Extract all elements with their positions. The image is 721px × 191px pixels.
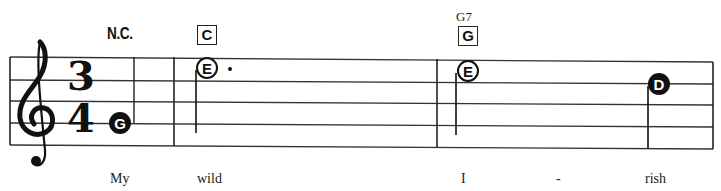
chord-box-c: C — [197, 25, 217, 45]
treble-clef-icon — [20, 42, 53, 165]
note-g: G — [109, 112, 131, 134]
time-signature-denominator: 4 — [63, 97, 99, 139]
augmentation-dot — [228, 67, 232, 71]
lyric-syllable: rish — [645, 171, 666, 187]
time-signature-numerator: 3 — [63, 55, 99, 97]
lyric-hyphen: - — [556, 171, 561, 187]
time-signature: 3 4 — [63, 55, 99, 139]
note-e-half: E — [457, 60, 479, 82]
chord-no-chord: N.C. — [107, 25, 133, 43]
lyric-syllable: My — [110, 171, 129, 187]
note-d: D — [648, 73, 670, 95]
chord-box-g: G — [458, 26, 478, 46]
lyric-syllable: wild — [197, 171, 222, 187]
treble-clef-ball — [31, 156, 41, 166]
note-e-dotted-half: E — [196, 57, 218, 79]
lyric-syllable: I — [461, 171, 466, 187]
chord-name-g7: G7 — [456, 9, 472, 25]
